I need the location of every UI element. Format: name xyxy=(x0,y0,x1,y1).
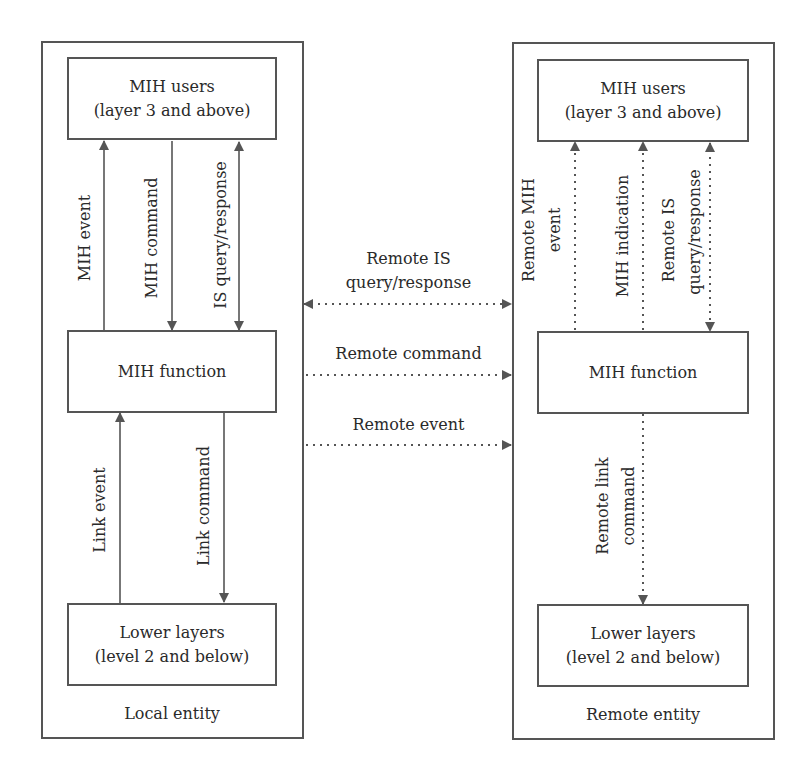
label-link-event: Link event xyxy=(89,467,111,553)
label-mih-command: MIH command xyxy=(141,178,163,299)
remote-mih-users-subtitle: (layer 3 and above) xyxy=(565,101,722,125)
local-lower-layers-title: Lower layers xyxy=(119,621,224,645)
label-link-command: Link command xyxy=(193,446,215,566)
remote-lower-layers-title: Lower layers xyxy=(590,622,695,646)
label-mih-event: MIH event xyxy=(74,195,96,281)
label-is-query-response: IS query/response xyxy=(210,161,232,309)
local-mih-users-subtitle: (layer 3 and above) xyxy=(94,99,251,123)
remote-mih-users-box: MIH users (layer 3 and above) xyxy=(537,59,749,142)
label-remote-event: Remote event xyxy=(306,414,511,436)
local-mih-function-label: MIH function xyxy=(118,360,227,384)
label-remote-is-between-1: Remote IS xyxy=(306,248,511,270)
label-remote-is-1: Remote IS xyxy=(658,198,680,283)
label-remote-mih-event-2: event xyxy=(544,208,566,253)
local-entity-caption: Local entity xyxy=(67,703,277,725)
label-remote-is-2: query/response xyxy=(684,169,706,294)
label-remote-mih-event-1: Remote MIH xyxy=(518,178,540,282)
remote-mih-users-title: MIH users xyxy=(600,77,686,101)
remote-lower-layers-subtitle: (level 2 and below) xyxy=(566,646,720,670)
remote-entity-caption: Remote entity xyxy=(537,704,749,726)
label-remote-link-command-2: command xyxy=(618,466,640,545)
remote-lower-layers-box: Lower layers (level 2 and below) xyxy=(537,604,749,687)
remote-mih-function-box: MIH function xyxy=(537,331,749,414)
local-mih-users-title: MIH users xyxy=(129,75,215,99)
label-mih-indication: MIH indication xyxy=(612,175,634,298)
label-remote-link-command-1: Remote link xyxy=(592,457,614,555)
local-lower-layers-subtitle: (level 2 and below) xyxy=(95,645,249,669)
remote-mih-function-label: MIH function xyxy=(589,361,698,385)
label-remote-command: Remote command xyxy=(306,343,511,365)
local-lower-layers-box: Lower layers (level 2 and below) xyxy=(67,603,277,686)
local-mih-function-box: MIH function xyxy=(67,330,277,413)
label-remote-is-between-2: query/response xyxy=(306,272,511,294)
local-mih-users-box: MIH users (layer 3 and above) xyxy=(67,57,277,140)
